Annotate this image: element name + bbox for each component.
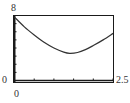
calculator-graph — [0, 0, 130, 103]
y-max-label: 8 — [11, 3, 16, 13]
plot-frame — [14, 16, 114, 83]
function-curve — [15, 17, 114, 53]
y-min-label: 0 — [2, 75, 7, 85]
x-max-label: 2.5 — [116, 75, 129, 85]
x-min-label: 0 — [14, 89, 19, 99]
